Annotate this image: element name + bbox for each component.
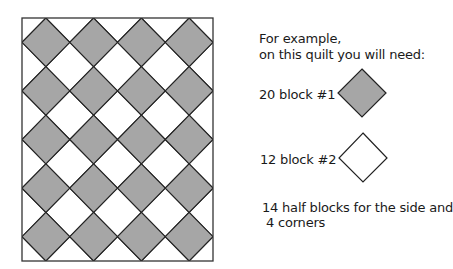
- intro-line-1: For example,: [259, 31, 341, 47]
- block-1-label: 20 block #1: [259, 87, 335, 103]
- quilt-blocks: [0, 0, 237, 269]
- block-2-label: 12 block #2: [260, 152, 336, 168]
- half-blocks-line-1: 14 half blocks for the side and: [262, 200, 453, 216]
- intro-line-2: on this quilt you will need:: [259, 47, 425, 63]
- gray-diamond-icon: [336, 67, 388, 119]
- half-blocks-line-2: 4 corners: [266, 215, 325, 231]
- white-diamond-icon: [338, 132, 390, 184]
